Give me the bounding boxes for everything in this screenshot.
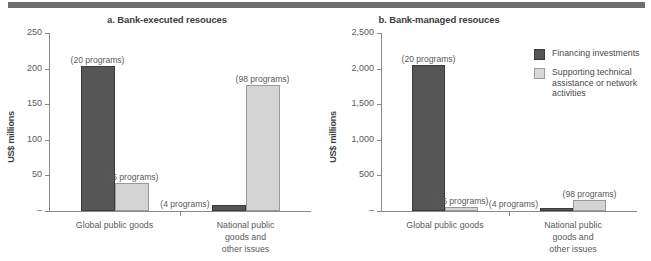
y-tick-a-5: 250	[49, 33, 54, 34]
y-tick-b-1: 500	[381, 175, 386, 176]
legend-swatch-light-icon	[534, 68, 545, 79]
y-tick-label: 1,000	[351, 134, 374, 144]
panel-a-title: a. Bank-executed resouces	[0, 14, 320, 25]
bar-a-g0-s0: (20 programs)	[81, 66, 115, 211]
y-tick-mark	[45, 175, 50, 176]
legend-swatch-dark-icon	[534, 49, 545, 60]
y-tick-mark	[377, 33, 382, 34]
y-tick-mark	[377, 104, 382, 105]
bar-a-g0-s1: (36 programs)	[115, 183, 149, 211]
y-tick-label: –	[37, 205, 42, 215]
y-tick-b-2: 1,000	[381, 140, 386, 141]
bar-annotation: (98 programs)	[563, 189, 617, 199]
y-tick-mark	[45, 140, 50, 141]
y-tick-b-5: 2,500	[381, 33, 386, 34]
bar-b-g0-s1: (36 programs)	[445, 207, 478, 211]
legend-item-financing-investments: Financing investments	[534, 48, 646, 60]
y-tick-b-4: 2,000	[381, 69, 386, 70]
y-tick-mark	[45, 69, 50, 70]
panel-a-y-axis-label: US$ millions	[6, 92, 16, 182]
top-rule-divider	[8, 2, 645, 8]
y-tick-mark	[45, 104, 50, 105]
y-tick-label: 1,500	[351, 98, 374, 108]
y-tick-mark	[45, 33, 50, 34]
chart-panel-a: a. Bank-executed resouces US$ millions –…	[0, 14, 320, 261]
y-tick-label: 2,500	[351, 27, 374, 37]
y-tick-mark	[377, 211, 382, 212]
x-category-label: National public goods and other issues	[541, 219, 605, 255]
y-tick-mark	[377, 69, 382, 70]
bar-b-g1-s0: (4 programs)	[540, 208, 573, 211]
y-tick-a-1: 50	[49, 175, 54, 176]
legend-label-financing-investments: Financing investments	[552, 48, 640, 59]
bar-b-g0-s0: (20 programs)	[412, 65, 445, 211]
bar-annotation: (20 programs)	[402, 54, 456, 64]
x-category-label: Global public goods	[76, 219, 153, 231]
y-tick-b-0: –	[381, 211, 386, 212]
legend-label-supporting-technical-assistance: Supporting technical assistance or netwo…	[552, 67, 646, 99]
y-tick-label: 250	[27, 27, 42, 37]
panel-a-plot-area: –50100150200250(20 programs)(36 programs…	[49, 33, 311, 211]
bar-annotation: (36 programs)	[435, 196, 489, 206]
bar-annotation: (98 programs)	[236, 74, 290, 84]
y-tick-label: 100	[27, 134, 42, 144]
chart-legend: Financing investments Supporting technic…	[534, 48, 646, 106]
x-category-label: National public goods and other issues	[213, 219, 279, 255]
panel-b-title: b. Bank-managed resouces	[326, 14, 646, 25]
bar-b-g1-s1: (98 programs)	[573, 200, 606, 211]
bar-a-g1-s1: (98 programs)	[246, 85, 280, 211]
y-tick-mark	[377, 175, 382, 176]
y-tick-a-3: 150	[49, 104, 54, 105]
panel-a-y-axis-line	[49, 33, 50, 211]
y-tick-label: 500	[359, 169, 374, 179]
y-tick-a-4: 200	[49, 69, 54, 70]
bar-annotation: (4 programs)	[489, 199, 538, 209]
y-tick-mark	[45, 211, 50, 212]
y-tick-a-0: –	[49, 211, 54, 212]
y-tick-mark	[377, 140, 382, 141]
y-tick-label: 50	[32, 169, 42, 179]
panel-b-y-axis-label: US$ millions	[328, 92, 338, 182]
x-category-tick	[180, 211, 181, 216]
bar-a-g1-s0: (4 programs)	[212, 205, 246, 211]
y-tick-label: 150	[27, 98, 42, 108]
panel-b-y-axis-line	[381, 33, 382, 211]
legend-item-supporting-technical-assistance: Supporting technical assistance or netwo…	[534, 67, 646, 99]
bar-annotation: (4 programs)	[160, 199, 209, 209]
y-tick-label: 200	[27, 63, 42, 73]
bar-annotation: (20 programs)	[71, 55, 125, 65]
bar-annotation: (36 programs)	[105, 172, 159, 182]
y-tick-label: 2,000	[351, 63, 374, 73]
y-tick-b-3: 1,500	[381, 104, 386, 105]
x-category-tick	[509, 211, 510, 216]
y-tick-a-2: 100	[49, 140, 54, 141]
x-category-label: Global public goods	[406, 219, 483, 231]
y-tick-label: –	[369, 205, 374, 215]
